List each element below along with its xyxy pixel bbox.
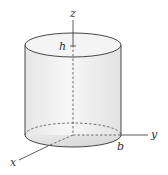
height-label: h: [59, 40, 66, 53]
x-axis-outside: [19, 146, 48, 160]
radius-label: b: [117, 140, 124, 153]
bottom-ellipse-front: [25, 135, 121, 147]
x-axis-label: x: [10, 156, 17, 169]
y-axis-label: y: [150, 128, 158, 141]
z-axis-label: z: [69, 7, 76, 20]
cylinder-diagram: z h y b x: [0, 0, 168, 175]
